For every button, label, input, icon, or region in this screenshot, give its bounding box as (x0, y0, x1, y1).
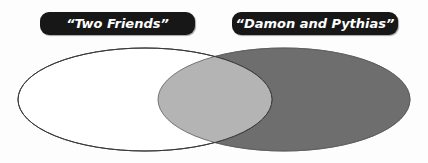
venn-label-left: “Two Friends” (40, 12, 195, 35)
venn-diagram-page: “Two Friends” “Damon and Pythias” (0, 0, 428, 163)
venn-label-right: “Damon and Pythias” (232, 12, 398, 35)
